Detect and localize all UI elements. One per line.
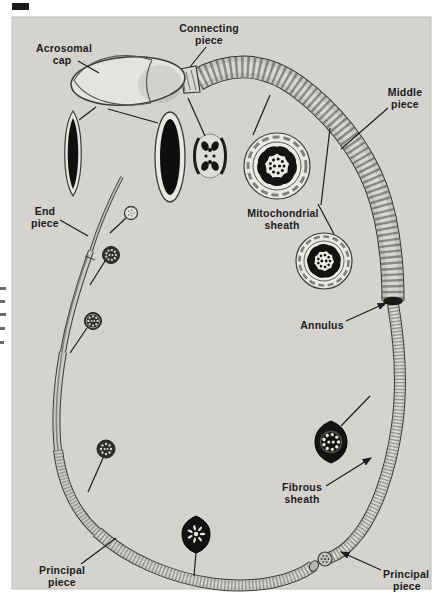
label-annulus: Annulus: [300, 319, 343, 331]
label-middle-piece: Middle: [388, 86, 422, 98]
label-mitochondrial-sheath: Mitochondrial: [247, 207, 318, 219]
margin-text-fragment: [0, 287, 6, 344]
label-connecting-piece: Connecting: [179, 22, 239, 34]
ring-element: [87, 320, 89, 322]
label-connecting-piece-2: piece: [195, 34, 223, 46]
sperm-diagram: Acrosomal cap Connecting piece Middle pi…: [0, 0, 443, 607]
head-section-sagittal: [65, 111, 82, 196]
label-principal-piece-left: Principal: [39, 564, 85, 576]
cut-tip-cross-section: [318, 552, 332, 566]
ring-element: [100, 448, 102, 450]
ring-element: [328, 558, 330, 560]
label-fibrous-sheath-2: sheath: [284, 493, 319, 505]
scan-artifact-mark: [12, 3, 29, 10]
ring-element: [283, 165, 286, 168]
ring-element: [133, 212, 135, 214]
ring-element: [329, 260, 332, 263]
label-acrosomal-cap-2: cap: [53, 54, 72, 66]
mitochondrial-sheath-cross-section-proximal: [244, 133, 310, 199]
label-end-piece: End: [35, 205, 55, 217]
principal-piece-cross-section-left: [97, 440, 115, 458]
head-section-frontal: [155, 112, 185, 202]
label-principal-piece-left-2: piece: [48, 576, 76, 588]
ring-element: [115, 254, 117, 256]
axoneme-cross-section: [103, 247, 120, 264]
ring-element: [321, 558, 323, 560]
end-piece-axoneme-cross-section: [85, 313, 102, 330]
ring-element: [110, 448, 112, 450]
label-principal-piece-right: Principal: [383, 568, 429, 580]
ring-element: [92, 324, 94, 326]
mitochondrial-sheath-cross-section-distal: [296, 233, 352, 289]
scanned-figure-page: Acrosomal cap Connecting piece Middle pi…: [0, 0, 443, 607]
ring-element: [92, 315, 94, 317]
label-principal-piece-right-2: piece: [393, 580, 421, 592]
ring-element: [200, 533, 206, 535]
annulus-ring: [383, 297, 403, 305]
ring-element: [105, 443, 107, 445]
connecting-piece-cross-section: [194, 134, 226, 178]
end-piece-cross-section: [125, 207, 138, 220]
ring-element: [96, 320, 98, 322]
label-mitochondrial-sheath-2: sheath: [264, 219, 299, 231]
ring-element: [337, 440, 340, 443]
ring-element: [105, 453, 107, 455]
label-fibrous-sheath: Fibrous: [282, 481, 322, 493]
label-end-piece-2: piece: [31, 217, 59, 229]
label-acrosomal-cap: Acrosomal: [36, 42, 92, 54]
label-middle-piece-2: piece: [391, 98, 419, 110]
